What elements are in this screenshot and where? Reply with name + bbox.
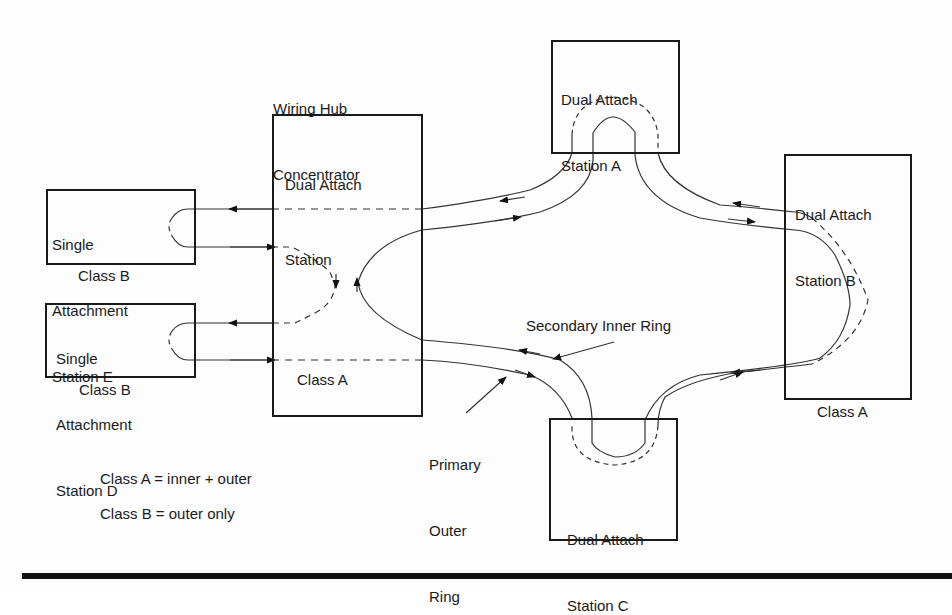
concentrator-label: Dual Attach Station [285,122,362,322]
primary-outer-ring-label: Primary Outer Ring [429,410,481,615]
station-b-box: Dual Attach Station B [784,154,912,400]
secondary-inner-ring-label: Secondary Inner Ring [526,315,671,337]
legend-class-a: Class A = inner + outer [100,468,252,490]
station-e-class-label: Class B [78,265,130,287]
station-e-box: Single Attachment Station E [46,189,196,265]
station-b-label: Dual Attach Station B [795,160,872,336]
station-c-box: Dual Attach Station C [549,418,678,541]
station-a-label: Dual Attach Station A [561,45,638,221]
station-b-class-label: Class A [817,401,868,423]
station-d-box: Single Attachment Station D [45,303,196,378]
concentrator-box: Dual Attach Station Class A [272,114,423,417]
station-c-label: Dual Attach Station C [567,485,644,615]
legend-class-b: Class B = outer only [100,503,235,525]
station-d-class-label: Class B [79,379,131,401]
bottom-rule [22,573,952,579]
station-a-box: Dual Attach Station A [551,40,680,154]
concentrator-class-label: Class A [297,369,348,391]
